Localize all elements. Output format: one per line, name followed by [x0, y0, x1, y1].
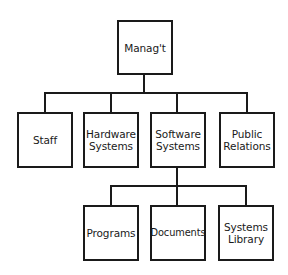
node-management: Manag't [117, 20, 173, 75]
node-hardware-systems-label: Hardware Systems [86, 128, 136, 152]
connector-level2-horizontal [44, 92, 248, 94]
node-systems-library: Systems Library [218, 205, 274, 261]
connector-documents-up [176, 185, 178, 206]
org-chart: Manag't Staff Hardware Systems Software … [0, 0, 288, 275]
connector-software-up [176, 92, 178, 113]
node-management-label: Manag't [124, 42, 166, 54]
node-staff: Staff [17, 112, 73, 168]
node-staff-label: Staff [33, 134, 57, 146]
node-public-relations: Public Relations [219, 112, 275, 168]
node-software-systems-label: Software Systems [155, 128, 201, 152]
node-programs-label: Programs [87, 227, 136, 239]
connector-hardware-up [110, 92, 112, 113]
node-software-systems: Software Systems [150, 112, 206, 168]
connector-management-down [143, 73, 145, 94]
connector-programs-up [110, 185, 112, 206]
connector-library-up [245, 185, 247, 206]
connector-public-up [246, 92, 248, 113]
node-hardware-systems: Hardware Systems [83, 112, 139, 168]
connector-level3-horizontal [110, 185, 247, 187]
connector-software-down [176, 167, 178, 187]
node-documents-label: Documents [151, 227, 206, 239]
node-public-relations-label: Public Relations [223, 128, 270, 152]
node-systems-library-label: Systems Library [224, 221, 268, 245]
node-programs: Programs [83, 205, 139, 261]
node-documents: Documents [150, 205, 206, 261]
connector-staff-up [44, 92, 46, 113]
